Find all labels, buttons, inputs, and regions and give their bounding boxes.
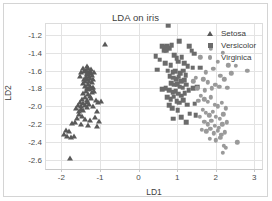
x-tick-label: 0 [136,173,140,182]
data-point-virginica [195,86,199,90]
data-point-virginica [206,80,210,84]
x-tick-mark [254,169,255,172]
data-point-versicolor [168,63,173,68]
data-point-virginica [203,88,207,92]
data-point-setosa [88,96,94,101]
data-point-setosa [82,83,88,88]
data-point-setosa [96,118,102,123]
legend-item-virginica[interactable]: Virginica [203,52,256,63]
x-tick-mark [216,169,217,172]
data-point-versicolor [166,23,171,28]
data-point-versicolor [173,69,178,74]
gridline-vertical [61,24,62,169]
data-point-virginica [224,145,228,149]
data-point-virginica [209,95,213,99]
data-point-virginica [196,99,200,103]
data-point-virginica [207,113,211,117]
y-tick-label: -2.0 [28,102,42,111]
data-point-virginica [229,71,233,75]
legend-item-versicolor[interactable]: Versicolor [203,40,256,51]
gridline-horizontal [46,142,262,143]
y-tick-label: -1.2 [28,30,42,39]
data-point-setosa [102,41,108,46]
data-point-virginica [218,117,222,121]
chart-title: LDA on iris [4,12,267,23]
data-point-virginica [235,140,239,144]
data-point-virginica [218,135,222,139]
data-point-setosa [94,124,100,129]
data-point-setosa [67,156,73,161]
data-point-virginica [198,115,202,119]
data-point-virginica [205,100,209,104]
data-point-setosa [69,121,75,126]
data-point-versicolor [183,73,188,78]
data-point-versicolor [177,39,182,44]
data-point-virginica [245,68,249,72]
data-point-setosa [71,133,77,138]
y-tick-label: -2.4 [28,138,42,147]
chart-container: LDA on iris -1.2-1.4-1.6-1.8-2.0-2.2-2.4… [3,3,268,197]
x-tick-label: -1 [96,173,103,182]
legend-label: Versicolor [221,41,256,50]
x-tick-mark [177,169,178,172]
data-point-versicolor [164,49,169,54]
gridline-horizontal [46,160,262,161]
data-point-virginica [234,64,238,68]
y-tick-label: -2.6 [28,156,42,165]
data-point-setosa [86,79,92,84]
data-point-virginica [216,104,220,108]
data-point-versicolor [157,58,162,63]
x-axis-label: LD1 [45,187,263,197]
data-point-setosa [66,128,72,133]
data-point-setosa [78,122,84,127]
data-point-setosa [88,66,94,71]
legend-label: Virginica [221,53,252,62]
data-point-virginica [209,118,213,122]
y-axis-label: LD2 [3,85,13,101]
legend-marker-versicolor-icon [203,43,217,48]
data-point-virginica [193,76,197,80]
x-tick-mark [100,169,101,172]
data-point-versicolor [190,66,195,71]
y-tick-label: -2.2 [28,120,42,129]
data-point-versicolor [184,120,189,125]
data-point-versicolor [198,66,203,71]
x-tick-mark [61,169,62,172]
data-point-setosa [85,123,91,128]
data-point-versicolor [185,64,190,69]
data-point-setosa [91,89,97,94]
data-point-virginica [198,55,202,59]
x-tick-label: 1 [175,173,179,182]
data-point-versicolor [171,117,176,122]
y-tick-label: -1.6 [28,66,42,75]
data-point-versicolor [192,51,197,56]
data-point-setosa [98,98,104,103]
data-point-virginica [222,77,226,81]
data-point-versicolor [169,43,174,48]
legend-label: Setosa [221,29,246,38]
data-point-versicolor [184,83,189,88]
x-tick-mark [139,169,140,172]
gridline-vertical [139,24,140,169]
data-point-virginica [219,101,223,105]
x-tick-label: 3 [252,173,256,182]
data-point-versicolor [179,115,184,120]
data-point-virginica [224,106,228,110]
data-point-versicolor [185,102,190,107]
data-point-virginica [220,151,224,155]
data-point-setosa [94,108,100,113]
data-point-versicolor [163,61,168,66]
y-tick-label: -1.4 [28,48,42,57]
legend-marker-setosa-icon [203,31,217,36]
data-point-versicolor [188,111,193,116]
legend-item-setosa[interactable]: Setosa [203,28,256,39]
data-point-virginica [221,112,225,116]
y-tick-label: -1.8 [28,84,42,93]
data-point-virginica [204,70,208,74]
data-point-versicolor [176,59,181,64]
data-point-setosa [84,71,90,76]
data-point-versicolor [160,87,165,92]
data-point-versicolor [155,67,160,72]
data-point-virginica [191,79,195,83]
x-tick-label: -2 [58,173,65,182]
